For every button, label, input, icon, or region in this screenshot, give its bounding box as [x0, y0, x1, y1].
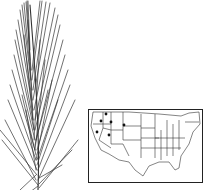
occurrence-dots: [96, 113, 126, 137]
us-map-outline: [89, 110, 202, 182]
grass-spike-illustration: [0, 0, 100, 190]
caption: [0, 185, 204, 193]
distribution-map: [88, 109, 203, 183]
